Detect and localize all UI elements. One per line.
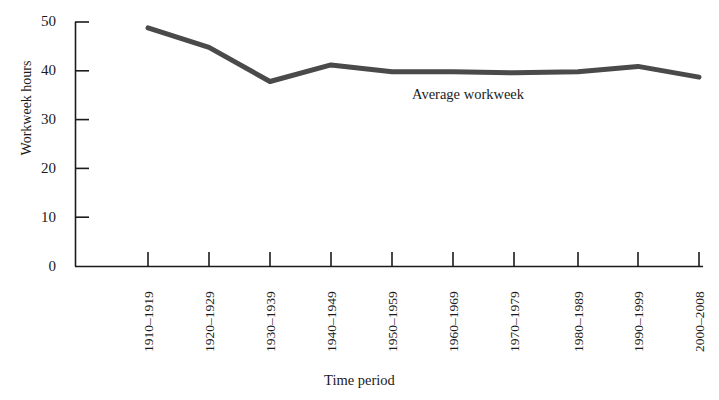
x-tick-label-1920-1929: 1920–1929 xyxy=(203,291,217,352)
x-tick-label-1960-1969: 1960–1969 xyxy=(447,291,461,352)
y-tick-label-30: 30 xyxy=(2,112,56,127)
x-tick-label-1940-1949: 1940–1949 xyxy=(325,291,339,352)
x-tick-marks xyxy=(148,252,699,266)
y-tick-label-10: 10 xyxy=(2,210,56,225)
y-tick-label-20: 20 xyxy=(2,161,56,176)
y-tick-marks xyxy=(75,22,89,217)
series-line-average-workweek xyxy=(148,28,699,82)
x-tick-label-1990-1999: 1990–1999 xyxy=(632,291,646,352)
chart-figure: Workweek hours Time period 0 10 20 30 40… xyxy=(0,0,719,400)
x-tick-label-1950-1959: 1950–1959 xyxy=(386,291,400,352)
plot-canvas xyxy=(0,0,719,400)
y-tick-label-0: 0 xyxy=(2,259,56,274)
y-tick-label-50: 50 xyxy=(2,14,56,29)
series-annotation-average-workweek: Average workweek xyxy=(412,86,524,103)
x-tick-label-1980-1989: 1980–1989 xyxy=(572,291,586,352)
y-tick-label-40: 40 xyxy=(2,63,56,78)
x-tick-label-2000-2008: 2000–2008 xyxy=(693,291,707,352)
x-tick-label-1970-1979: 1970–1979 xyxy=(508,291,522,352)
x-tick-label-1930-1939: 1930–1939 xyxy=(264,291,278,352)
x-tick-label-1910-1919: 1910–1919 xyxy=(142,291,156,352)
x-axis-title: Time period xyxy=(0,372,719,389)
